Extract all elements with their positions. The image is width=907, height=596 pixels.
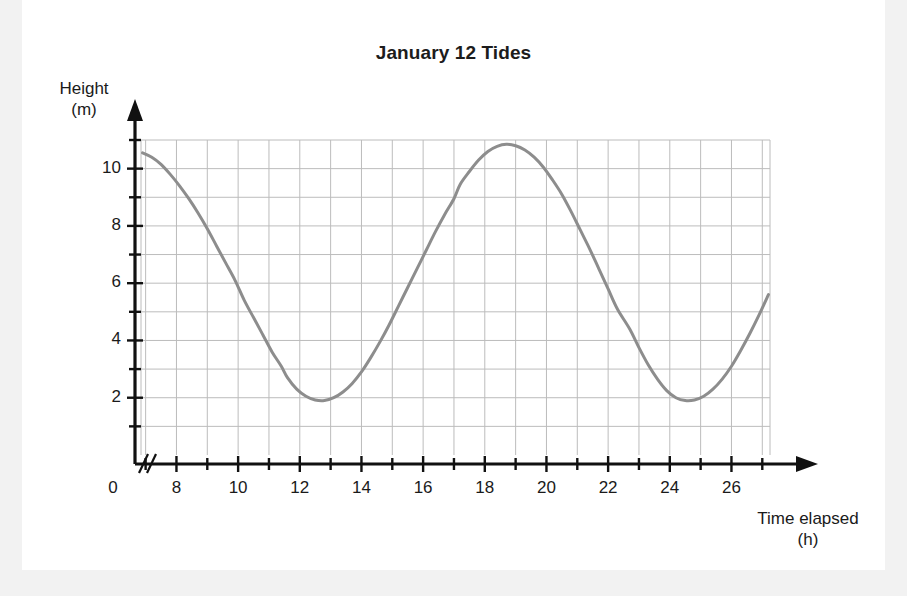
tide-curve-path xyxy=(143,144,769,400)
tide-curve xyxy=(143,144,769,400)
tide-chart: January 12 Tides Height (m) Time elapsed… xyxy=(0,0,907,596)
grid-lines xyxy=(141,140,770,455)
axis-lines xyxy=(127,99,818,473)
chart-canvas xyxy=(0,0,907,596)
y-axis-arrow xyxy=(127,99,143,121)
x-axis-arrow xyxy=(796,456,818,472)
